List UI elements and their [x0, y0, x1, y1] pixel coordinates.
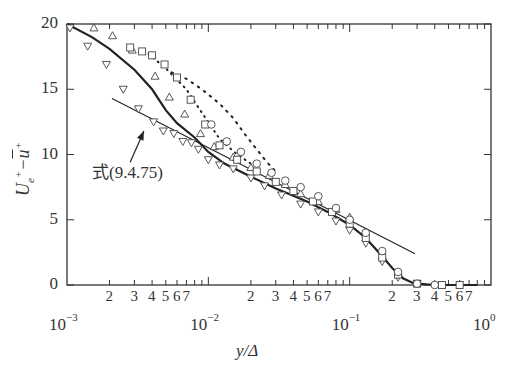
triangle-down-marker — [159, 128, 167, 135]
circle-marker — [297, 183, 305, 191]
triangle-up-marker — [181, 110, 189, 117]
triangle-down-marker — [204, 157, 212, 164]
triangle-down-marker — [102, 61, 110, 68]
x-axis-label: y/Δ — [236, 341, 258, 361]
x-minor-tick-label: 2 — [106, 288, 114, 305]
x-minor-tick-label: 3 — [130, 288, 138, 305]
triangle-up-marker — [196, 130, 204, 137]
axis-ticks — [67, 24, 491, 285]
triangle-down-marker — [297, 201, 305, 208]
circle-marker — [378, 247, 386, 255]
x-minor-tick-label: 5 — [162, 288, 170, 305]
triangle-down-marker — [314, 209, 322, 216]
square-marker — [234, 156, 241, 163]
x-minor-tick-label: 2 — [388, 288, 396, 305]
circle-marker — [413, 280, 421, 288]
x-major-tick-label: 10−3 — [49, 313, 78, 335]
annotation-label: 式(9.4.75) — [92, 158, 163, 183]
triangle-down-marker — [179, 138, 187, 145]
triangle-down-marker — [134, 106, 142, 113]
y-tick-label: 15 — [28, 78, 58, 98]
circle-marker — [394, 268, 402, 276]
x-minor-tick-label: 2 — [247, 288, 255, 305]
triangle-down-marker — [278, 192, 286, 199]
x-minor-tick-label: 7 — [465, 288, 473, 305]
triangle-down-marker — [170, 131, 178, 138]
circle-marker — [268, 169, 276, 177]
square-marker — [161, 61, 168, 68]
y-axis-label: Ue+−u+ — [12, 142, 36, 196]
x-minor-tick-label: 4 — [431, 288, 439, 305]
triangle-up-marker — [109, 32, 117, 39]
triangle-down-marker — [261, 183, 269, 190]
x-minor-tick-label: 4 — [289, 288, 297, 305]
triangle-down-marker — [187, 140, 195, 147]
solid-curve-line — [67, 24, 477, 285]
x-minor-tick-label: 4 — [148, 288, 156, 305]
square-marker — [127, 44, 134, 51]
x-minor-tick-label: 7 — [324, 288, 332, 305]
x-minor-tick-label: 3 — [413, 288, 421, 305]
triangle-down-marker — [332, 218, 340, 225]
triangle-down-marker — [346, 227, 354, 234]
triangle-up-marker — [90, 24, 98, 31]
square-marker — [272, 178, 279, 185]
circle-marker — [237, 148, 245, 156]
circle-marker — [346, 216, 354, 224]
x-minor-tick-label: 5 — [303, 288, 311, 305]
triangle-up-marker — [151, 72, 159, 79]
square-marker — [149, 52, 156, 59]
triangle-up-marker — [165, 93, 173, 100]
square-marker — [139, 48, 146, 55]
circle-marker — [208, 121, 216, 129]
circle-marker — [281, 177, 289, 185]
x-major-tick-label: 10−1 — [332, 313, 361, 335]
square-marker — [253, 168, 260, 175]
x-minor-tick-label: 6 — [314, 288, 322, 305]
triangle-down-marker — [194, 146, 202, 153]
x-major-tick-label: 10−2 — [190, 313, 219, 335]
triangle-down-marker — [119, 86, 127, 93]
circle-marker — [332, 204, 340, 212]
triangle-down-marker — [216, 162, 224, 169]
x-minor-tick-label: 7 — [182, 288, 190, 305]
dotted-curve-dense-dots--line — [172, 72, 276, 171]
x-minor-tick-label: 3 — [272, 288, 280, 305]
x-minor-tick-label: 6 — [173, 288, 181, 305]
y-tick-label: 0 — [28, 274, 58, 294]
triangle-down-marker — [150, 119, 158, 126]
square-marker — [290, 188, 297, 195]
circle-marker — [223, 138, 231, 146]
x-minor-tick-label: 5 — [444, 288, 452, 305]
data-series — [66, 24, 477, 289]
circle-marker — [362, 229, 370, 237]
square-marker — [173, 74, 180, 81]
x-major-tick-label: 100 — [473, 313, 496, 335]
y-tick-label: 20 — [28, 13, 58, 33]
circle-marker — [253, 160, 261, 168]
square-marker — [216, 142, 223, 149]
y-tick-label: 5 — [28, 209, 58, 229]
square-marker — [187, 96, 194, 103]
triangle-down-marker — [84, 43, 92, 50]
x-minor-tick-label: 6 — [456, 288, 464, 305]
circle-marker — [315, 192, 323, 200]
plot-frame — [67, 24, 491, 285]
